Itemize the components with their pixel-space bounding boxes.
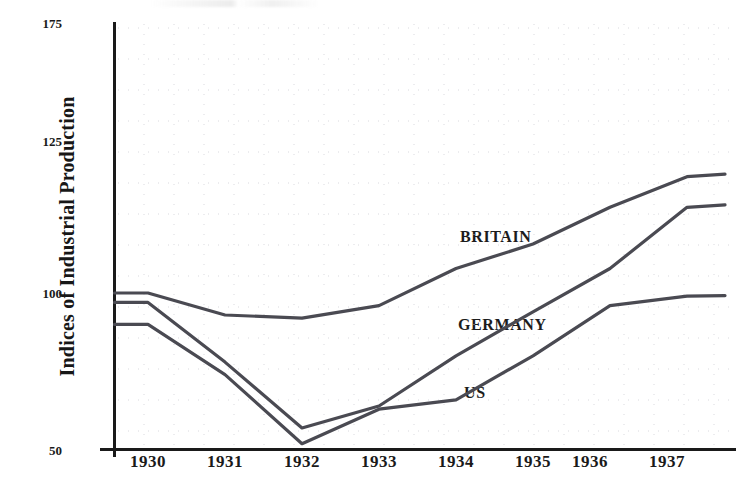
series-lines	[115, 174, 726, 444]
series-line-britain	[115, 174, 726, 318]
axis-lines	[100, 22, 736, 457]
series-line-us	[115, 296, 726, 444]
series-line-germany	[115, 205, 726, 428]
grid-lines	[118, 24, 736, 446]
chart-canvas: Indices of Industrial Production 175 125…	[0, 0, 744, 495]
plot-area	[0, 0, 744, 495]
